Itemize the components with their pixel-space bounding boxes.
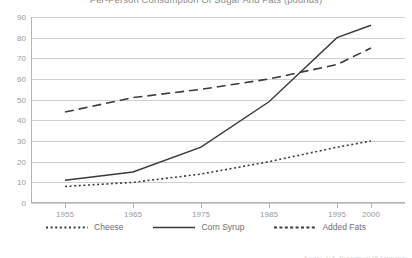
y-tick-label-30: 30 [17, 137, 26, 146]
legend-label-cheese: Cheese [94, 222, 123, 232]
y-tick-label-40: 40 [17, 116, 26, 125]
legend-swatch-added-fats [274, 224, 316, 231]
y-tick-label-90: 90 [17, 13, 26, 22]
chart-title: Per-Person Consumption Of Sugar And Fats… [0, 0, 412, 6]
x-tick-label-1995: 1995 [328, 210, 346, 219]
legend-item-added-fats[interactable]: Added Fats [274, 222, 365, 232]
x-tick-mark-1975 [201, 203, 202, 208]
y-tick-label-80: 80 [17, 33, 26, 42]
y-tick-label-50: 50 [17, 95, 26, 104]
y-tick-label-60: 60 [17, 75, 26, 84]
x-tick-label-1975: 1975 [192, 210, 210, 219]
x-tick-mark-1965 [133, 203, 134, 208]
legend-label-added-fats: Added Fats [322, 222, 365, 232]
legend-swatch-corn-syrup [153, 224, 195, 231]
legend-swatch-cheese [46, 224, 88, 231]
x-tick-label-1965: 1965 [124, 210, 142, 219]
series-line-added-fats [65, 48, 371, 112]
y-tick-label-20: 20 [17, 157, 26, 166]
x-tick-label-1955: 1955 [56, 210, 74, 219]
gridline-y-0 [31, 203, 405, 204]
x-tick-mark-1955 [65, 203, 66, 208]
series-line-cheese [65, 141, 371, 186]
x-tick-mark-2000 [371, 203, 372, 208]
y-tick-label-0: 0 [22, 199, 26, 208]
plot-area: 0102030405060708090195519651975198519952… [31, 17, 405, 203]
chart-legend: CheeseCorn SyrupAdded Fats [0, 222, 412, 232]
x-tick-mark-1985 [269, 203, 270, 208]
y-tick-label-10: 10 [17, 178, 26, 187]
x-tick-label-2000: 2000 [362, 210, 380, 219]
legend-item-corn-syrup[interactable]: Corn Syrup [153, 222, 244, 232]
legend-label-corn-syrup: Corn Syrup [201, 222, 244, 232]
x-tick-mark-1995 [337, 203, 338, 208]
y-tick-label-70: 70 [17, 54, 26, 63]
chart-container: Per-Person Consumption Of Sugar And Fats… [0, 0, 412, 258]
x-tick-label-1985: 1985 [260, 210, 278, 219]
series-layer [31, 17, 405, 203]
legend-item-cheese[interactable]: Cheese [46, 222, 123, 232]
